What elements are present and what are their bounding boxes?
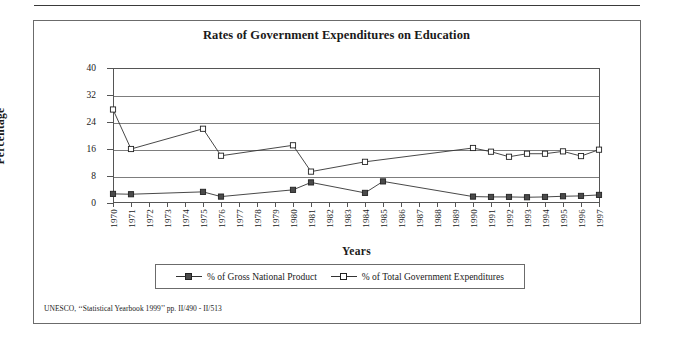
x-axis-tick-mark [311, 203, 312, 207]
y-axis-tick-label: 0 [70, 198, 96, 208]
x-axis-tick-label: 1995 [559, 209, 569, 228]
x-axis-tick-label: 1979 [271, 209, 281, 228]
x-axis-tick-mark [491, 203, 492, 207]
chart-legend: % of Gross National Product% of Total Go… [155, 264, 525, 289]
x-axis-tick-label: 1984 [361, 209, 371, 228]
x-axis-tick-label: 1978 [253, 209, 263, 228]
x-axis-tick-label: 1976 [217, 209, 227, 228]
y-axis-tick-label: 32 [70, 90, 96, 100]
x-axis-tick-mark [599, 203, 600, 207]
data-point-marker [506, 194, 511, 199]
data-point-marker [470, 194, 475, 199]
data-point-marker [362, 190, 367, 195]
x-axis-tick-mark [509, 203, 510, 207]
x-axis-tick-label: 1996 [577, 209, 587, 228]
series-layer [113, 68, 600, 203]
x-axis-tick-label: 1993 [523, 209, 533, 228]
x-axis-tick-mark [365, 203, 366, 207]
y-axis-tick-labels: 0816243240 [62, 68, 96, 203]
x-axis-tick-label: 1970 [109, 209, 119, 228]
x-axis-tick-label: 1977 [235, 209, 245, 228]
x-axis-tick-label: 1985 [379, 209, 389, 228]
x-axis-tick-label: 1988 [433, 209, 443, 228]
data-point-marker [200, 189, 205, 194]
x-axis-tick-label: 1986 [397, 209, 407, 228]
x-axis-tick-label: 1983 [343, 209, 353, 228]
legend-swatch [176, 272, 202, 281]
data-point-marker [200, 126, 205, 131]
data-point-marker [524, 151, 529, 156]
legend-swatch [331, 272, 357, 281]
x-axis-title: Years [113, 245, 600, 257]
x-axis-tick-mark [131, 203, 132, 207]
open-square-icon [340, 273, 347, 280]
data-point-marker [524, 195, 529, 200]
data-point-marker [542, 194, 547, 199]
x-axis-tick-mark [275, 203, 276, 207]
y-axis-tick-label: 24 [70, 117, 96, 127]
data-point-marker [596, 192, 601, 197]
data-point-marker [380, 179, 385, 184]
x-axis-tick-mark [257, 203, 258, 207]
top-divider-rule [34, 5, 640, 6]
data-point-marker [128, 192, 133, 197]
y-axis-tick-label: 8 [70, 171, 96, 181]
x-axis-tick-mark [221, 203, 222, 207]
data-point-marker [470, 145, 475, 150]
x-axis-tick-label: 1997 [595, 209, 605, 228]
x-axis-tick-label: 1975 [199, 209, 209, 228]
data-point-marker [218, 194, 223, 199]
data-point-marker [506, 154, 511, 159]
x-axis-tick-mark [239, 203, 240, 207]
y-axis-title: Percentage [0, 86, 6, 186]
x-axis-tick-label: 1973 [163, 209, 173, 228]
data-point-marker [578, 153, 583, 158]
x-axis-tick-mark [563, 203, 564, 207]
x-axis-tick-mark [545, 203, 546, 207]
x-axis-tick-mark [185, 203, 186, 207]
x-axis-tick-label: 1990 [469, 209, 479, 228]
x-axis-tick-mark [437, 203, 438, 207]
figure-page: Rates of Government Expenditures on Educ… [0, 0, 673, 346]
x-axis-tick-mark [293, 203, 294, 207]
x-axis-tick-mark [329, 203, 330, 207]
x-axis-tick-mark [419, 203, 420, 207]
data-point-marker [488, 194, 493, 199]
x-axis-tick-mark [383, 203, 384, 207]
x-axis-tick-labels: 1970197119721973197419751976197719781979… [113, 209, 600, 245]
y-axis-tick-label: 40 [70, 63, 96, 73]
x-axis-tick-mark [527, 203, 528, 207]
x-axis-tick-mark [473, 203, 474, 207]
x-axis-tick-mark [455, 203, 456, 207]
x-axis-tick-label: 1974 [181, 209, 191, 228]
legend-label: % of Gross National Product [207, 272, 317, 282]
chart-title: Rates of Government Expenditures on Educ… [0, 28, 673, 43]
x-axis-tick-mark [347, 203, 348, 207]
x-axis-tick-label: 1989 [451, 209, 461, 228]
data-point-marker [542, 151, 547, 156]
legend-entry[interactable]: % of Gross National Product [176, 272, 317, 282]
filled-square-icon [185, 273, 192, 280]
data-point-marker [560, 149, 565, 154]
x-axis-tick-mark [401, 203, 402, 207]
x-axis-tick-mark [113, 203, 114, 207]
x-axis-tick-label: 1991 [487, 209, 497, 228]
x-axis-tick-label: 1987 [415, 209, 425, 228]
y-axis-tick-label: 16 [70, 144, 96, 154]
data-point-marker [290, 143, 295, 148]
data-point-marker [218, 153, 223, 158]
data-point-marker [596, 147, 601, 152]
legend-entry[interactable]: % of Total Government Expenditures [331, 272, 504, 282]
legend-label: % of Total Government Expenditures [362, 272, 504, 282]
x-axis-tick-label: 1992 [505, 209, 515, 228]
data-point-marker [488, 149, 493, 154]
x-axis-tick-mark [167, 203, 168, 207]
data-point-marker [560, 194, 565, 199]
data-point-marker [110, 191, 115, 196]
x-axis-tick-marks [113, 203, 600, 208]
data-point-marker [362, 159, 367, 164]
x-axis-tick-label: 1981 [307, 209, 317, 228]
y-axis-tick-marks [96, 68, 113, 203]
x-axis-tick-mark [149, 203, 150, 207]
data-point-marker [308, 169, 313, 174]
